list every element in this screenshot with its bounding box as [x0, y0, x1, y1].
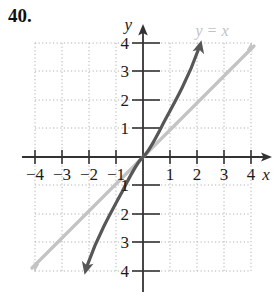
- y-tick-label: 2: [121, 205, 130, 224]
- y-tick-label: 4: [121, 262, 130, 281]
- y-tick-label: 3: [121, 233, 130, 252]
- x-tick-label: 4: [247, 165, 256, 184]
- y-tick-label: 3: [121, 62, 130, 81]
- x-tick-label: 3: [220, 165, 229, 184]
- graph-figure: −4 −3 −2 −1 1 2 3 4 4 3 2 1 1 2 3 4 y x …: [0, 0, 278, 296]
- x-tick-label: 2: [193, 165, 202, 184]
- x-tick-label: −2: [80, 165, 98, 184]
- x-tick-label: −3: [53, 165, 71, 184]
- curve-arrow-down-icon: [79, 261, 94, 277]
- x-tick-label: −4: [26, 165, 45, 184]
- y-tick-label: 1: [121, 176, 130, 195]
- y-tick-label: 2: [121, 91, 130, 110]
- y-tick-label: 4: [121, 34, 130, 53]
- coordinate-plane-svg: −4 −3 −2 −1 1 2 3 4 4 3 2 1 1 2 3 4 y x …: [0, 0, 278, 296]
- x-axis-tick-labels: −4 −3 −2 −1 1 2 3 4: [26, 165, 256, 184]
- curve-arrow-up-icon: [192, 39, 207, 55]
- y-axis-label: y: [122, 15, 132, 34]
- reference-line-label: y = x: [194, 22, 229, 40]
- x-axis-label: x: [261, 165, 270, 184]
- y-tick-label: 1: [121, 119, 130, 138]
- x-tick-label: 1: [166, 165, 175, 184]
